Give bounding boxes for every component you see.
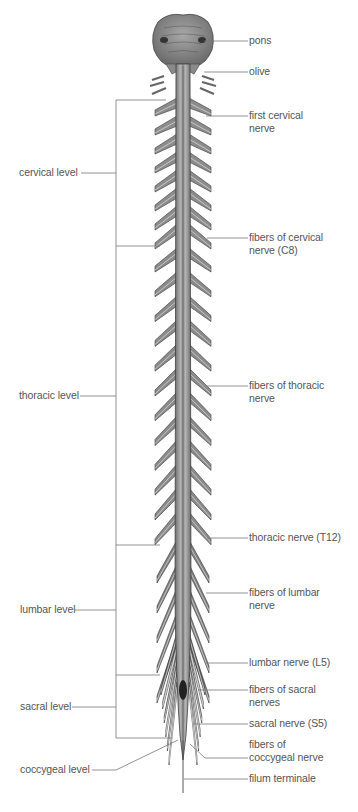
label-thoracic-level: thoracic level (19, 389, 79, 402)
label-lumbar-nerve-l5: lumbar nerve (L5) (249, 656, 330, 669)
label-olive: olive (249, 65, 270, 78)
label-fibers-sacral: fibers of sacral nerves (249, 683, 316, 709)
label-sacral-nerve-s5: sacral nerve (S5) (249, 717, 327, 730)
label-fibers-coccygeal: fibers of coccygeal nerve (249, 738, 323, 764)
label-lumbar-level: lumbar level (20, 603, 75, 616)
label-sacral-level: sacral level (20, 700, 71, 713)
label-first-cervical-nerve: first cervical nerve (249, 109, 303, 135)
spinal-cord (175, 64, 191, 793)
label-fibers-lumbar: fibers of lumbar nerve (249, 586, 320, 612)
label-pons: pons (249, 34, 271, 47)
label-coccygeal-level: coccygeal level (20, 763, 90, 776)
label-fibers-thoracic: fibers of thoracic nerve (249, 379, 324, 405)
label-fibers-cervical-c8: fibers of cervical nerve (C8) (249, 231, 323, 257)
spinal-cord-diagram: cervical level thoracic level lumbar lev… (0, 0, 358, 812)
label-cervical-level: cervical level (19, 166, 78, 179)
label-filum-terminale: filum terminale (249, 772, 316, 785)
label-thoracic-nerve-t12: thoracic nerve (T12) (249, 531, 341, 544)
